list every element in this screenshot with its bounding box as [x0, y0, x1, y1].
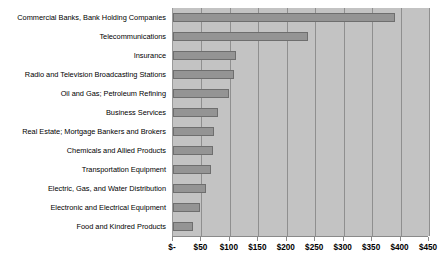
axis-tick-label: $300: [334, 243, 352, 252]
category-label: Electric, Gas, and Water Distribution: [0, 179, 170, 198]
bar: [173, 108, 218, 117]
category-label: Real Estate; Mortgage Bankers and Broker…: [0, 122, 170, 141]
axis-tick: [343, 237, 344, 241]
axis-tick: [428, 237, 429, 241]
bar-row: [173, 198, 429, 217]
bar: [173, 127, 214, 136]
axis-tick: [257, 237, 258, 241]
bar: [173, 184, 206, 193]
category-label: Food and Kindred Products: [0, 217, 170, 236]
axis-tick-label: $250: [305, 243, 323, 252]
category-label: Telecommunications: [0, 27, 170, 46]
category-label: Oil and Gas; Petroleum Refining: [0, 84, 170, 103]
bar: [173, 146, 213, 155]
value-axis-line: [172, 236, 428, 243]
category-label: Business Services: [0, 103, 170, 122]
axis-tick-label: $150: [248, 243, 266, 252]
bar-row: [173, 8, 429, 27]
axis-tick: [200, 237, 201, 241]
bar: [173, 13, 395, 22]
bar-chart: Commercial Banks, Bank Holding Companies…: [0, 0, 442, 272]
axis-tick: [172, 237, 173, 241]
bar: [173, 70, 234, 79]
axis-tick-label: $200: [277, 243, 295, 252]
bar-row: [173, 160, 429, 179]
bar: [173, 51, 236, 60]
axis-tick-label: $350: [362, 243, 380, 252]
bar-row: [173, 65, 429, 84]
bar-row: [173, 103, 429, 122]
bar-row: [173, 46, 429, 65]
axis-tick-label: $50: [194, 243, 208, 252]
bar: [173, 222, 193, 231]
bar-row: [173, 179, 429, 198]
gridline: [429, 8, 430, 236]
category-label: Transportation Equipment: [0, 160, 170, 179]
category-label: Electronic and Electrical Equipment: [0, 198, 170, 217]
category-axis: Commercial Banks, Bank Holding Companies…: [0, 8, 170, 236]
bar-row: [173, 27, 429, 46]
axis-tick: [371, 237, 372, 241]
bar-row: [173, 122, 429, 141]
axis-tick-label: $450: [419, 243, 437, 252]
axis-tick-label: $-: [168, 243, 175, 252]
bar-series: [173, 8, 429, 236]
bar: [173, 32, 308, 41]
axis-tick: [400, 237, 401, 241]
plot-area: [172, 8, 429, 236]
axis-tick: [286, 237, 287, 241]
axis-tick: [229, 237, 230, 241]
category-label: Radio and Television Broadcasting Statio…: [0, 65, 170, 84]
bar: [173, 165, 211, 174]
value-axis-labels: $-$50$100$150$200$250$300$350$400$450: [172, 243, 428, 257]
category-label: Commercial Banks, Bank Holding Companies: [0, 8, 170, 27]
bar: [173, 203, 200, 212]
axis-tick-label: $100: [220, 243, 238, 252]
axis-tick: [314, 237, 315, 241]
bar-row: [173, 217, 429, 236]
axis-tick-label: $400: [390, 243, 408, 252]
category-label: Chemicals and Allied Products: [0, 141, 170, 160]
bar: [173, 89, 229, 98]
bar-row: [173, 84, 429, 103]
bar-row: [173, 141, 429, 160]
category-label: Insurance: [0, 46, 170, 65]
